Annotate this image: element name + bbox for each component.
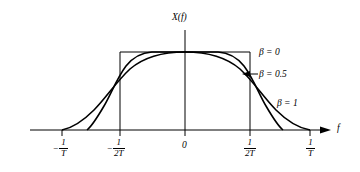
tick-denominator: 2T (244, 149, 256, 158)
tick-label-zero: 0 (182, 140, 187, 150)
tick-denominator: 2T (113, 149, 125, 158)
tick-denominator: T (60, 149, 67, 158)
x-axis (30, 127, 331, 134)
tick-label-pos-one-over-2T: 1 2T (243, 138, 256, 158)
tick-denominator: T (307, 149, 314, 158)
tick-label-neg-one-over-T: − 1 T (53, 138, 68, 158)
tick-label-pos-one-over-T: 1 T (305, 138, 315, 158)
tick-sign: − (53, 143, 58, 153)
raised-cosine-spectrum-figure: X(f) f − 1 T − 1 2T 0 1 2T 1 (0, 0, 360, 172)
tick-numerator: 1 (307, 138, 314, 147)
tick-label-neg-one-over-2T: − 1 2T (107, 138, 125, 158)
x-axis-ticks (62, 130, 310, 136)
tick-sign: − (107, 143, 112, 153)
beta-0-5-leader-arrow (242, 71, 258, 77)
annotation-beta-0: β = 0 (259, 47, 280, 57)
tick-numerator: 1 (116, 138, 123, 147)
x-axis-label: f (337, 123, 340, 133)
annotation-beta-0-5: β = 0.5 (259, 69, 287, 79)
tick-numerator: 1 (60, 138, 67, 147)
y-axis-label: X(f) (172, 12, 187, 22)
annotation-beta-1: β = 1 (277, 98, 298, 108)
tick-numerator: 1 (247, 138, 254, 147)
